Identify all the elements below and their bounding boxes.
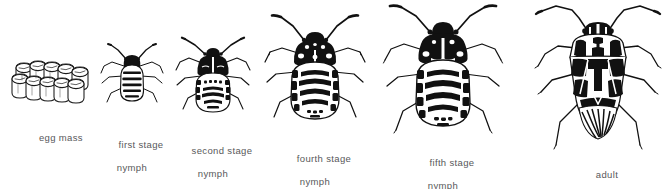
stage-first-stage-nymph: first stage nymph	[98, 42, 166, 142]
stage-second-stage-nymph: second stage nymph	[173, 36, 253, 148]
label-adult: adult	[532, 157, 664, 189]
label-fifth-stage-nymph-line2: nymph	[383, 180, 503, 190]
label-fifth-stage-nymph: fifth stage nymph	[383, 145, 503, 189]
nymph-instar-4-illustration	[263, 10, 367, 136]
label-fifth-stage-nymph-line1: fifth stage	[429, 157, 474, 168]
label-second-stage-nymph-line2: nymph	[173, 168, 253, 180]
label-first-stage-nymph-line2: nymph	[98, 162, 166, 174]
label-fourth-stage-nymph-line2: nymph	[263, 176, 367, 188]
nymph-instar-1-illustration	[98, 42, 166, 124]
insect-life-stages-figure: egg mass	[0, 0, 668, 189]
nymph-instar-5-illustration	[383, 2, 503, 150]
stage-adult: adult	[532, 0, 664, 180]
stage-fifth-stage-nymph: fifth stage nymph	[383, 2, 503, 162]
stage-fourth-stage-nymph: fourth stage nymph	[263, 10, 367, 150]
label-second-stage-nymph-line1: second stage	[192, 145, 253, 156]
stage-egg-mass: egg mass	[4, 52, 100, 122]
label-fourth-stage-nymph-line1: fourth stage	[297, 153, 351, 164]
label-first-stage-nymph: first stage nymph	[98, 127, 166, 189]
label-second-stage-nymph: second stage nymph	[173, 133, 253, 189]
label-egg-mass-line1: egg mass	[39, 132, 83, 143]
label-adult-line1: adult	[596, 169, 618, 180]
label-first-stage-nymph-line1: first stage	[118, 139, 163, 150]
egg-mass-illustration	[4, 52, 100, 114]
adult-bug-illustration	[532, 0, 664, 162]
label-fourth-stage-nymph: fourth stage nymph	[263, 141, 367, 189]
nymph-instar-2-illustration	[173, 36, 253, 130]
label-egg-mass: egg mass	[4, 120, 100, 178]
